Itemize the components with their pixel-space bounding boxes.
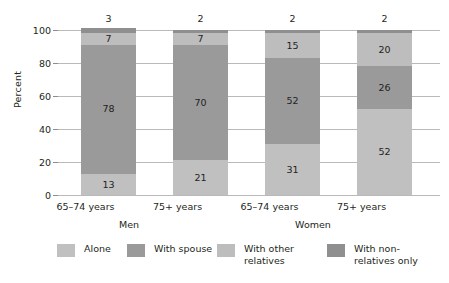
x-axis-group-label-women: Women: [253, 219, 373, 230]
legend-item-1[interactable]: With spouse: [127, 243, 212, 257]
legend-item-0[interactable]: Alone: [57, 243, 111, 257]
legend-label-2: With other relatives: [244, 243, 294, 266]
y-axis-tick-label-0: 0: [21, 190, 51, 201]
stacked-bar-chart: Percent 02040608010013787332170722315215…: [0, 0, 449, 283]
bar-3-segment-2-value-label: 20: [378, 45, 390, 55]
bar-1-segment-2[interactable]: 7: [173, 33, 228, 45]
y-axis-tick-label-60: 60: [21, 91, 51, 102]
y-axis-tick-mark-40: [53, 129, 58, 130]
bar-2-top-value-label: 2: [265, 13, 320, 24]
bar-3-segment-0-value-label: 52: [378, 147, 390, 157]
x-axis-category-label-1: 75+ years: [133, 201, 223, 212]
legend-swatch-3: [327, 244, 345, 257]
bar-1-segment-0[interactable]: 21: [173, 160, 228, 195]
bar-2-segment-0-value-label: 31: [286, 165, 298, 175]
y-axis-tick-label-40: 40: [21, 124, 51, 135]
bar-3-segment-0[interactable]: 52: [357, 109, 412, 195]
bar-2-segment-0[interactable]: 31: [265, 144, 320, 195]
bar-1-segment-3[interactable]: 2: [173, 30, 228, 33]
bar-1-segment-1[interactable]: 70: [173, 45, 228, 161]
y-axis-tick-label-100: 100: [21, 25, 51, 36]
bar-0[interactable]: 1378733: [81, 30, 136, 195]
y-axis-tick-label-80: 80: [21, 58, 51, 69]
bar-0-top-value-label: 3: [81, 13, 136, 24]
x-axis-category-label-2: 65–74 years: [225, 201, 315, 212]
bar-1-top-value-label: 2: [173, 13, 228, 24]
bar-0-segment-3[interactable]: 3: [81, 28, 136, 33]
bar-3[interactable]: 52262022: [357, 30, 412, 195]
bar-0-segment-0-value-label: 13: [102, 180, 114, 190]
gridline-0: [58, 195, 440, 196]
y-axis-tick-mark-20: [53, 162, 58, 163]
plot-area: 0204060801001378733217072231521522522620…: [58, 30, 440, 195]
legend-label-3: With non- relatives only: [354, 243, 418, 266]
bar-0-segment-0[interactable]: 13: [81, 174, 136, 195]
bar-2-segment-1[interactable]: 52: [265, 58, 320, 144]
bar-1-segment-1-value-label: 70: [194, 98, 206, 108]
bar-1-segment-2-value-label: 7: [197, 34, 203, 44]
bar-0-segment-2[interactable]: 7: [81, 33, 136, 45]
bar-0-segment-1[interactable]: 78: [81, 45, 136, 174]
bar-0-segment-1-value-label: 78: [102, 104, 114, 114]
bar-1[interactable]: 2170722: [173, 30, 228, 195]
bar-3-segment-3[interactable]: 2: [357, 30, 412, 33]
y-axis-tick-label-20: 20: [21, 157, 51, 168]
legend-item-2[interactable]: With other relatives: [217, 243, 294, 266]
y-axis-tick-mark-60: [53, 96, 58, 97]
chart-legend: AloneWith spouseWith other relativesWith…: [0, 243, 449, 283]
bar-2-segment-2[interactable]: 15: [265, 33, 320, 58]
bar-0-segment-2-value-label: 7: [105, 34, 111, 44]
legend-swatch-1: [127, 244, 145, 257]
bar-2-segment-2-value-label: 15: [286, 41, 298, 51]
bar-3-segment-1[interactable]: 26: [357, 66, 412, 109]
x-axis-category-label-0: 65–74 years: [41, 201, 131, 212]
bar-1-segment-0-value-label: 21: [194, 173, 206, 183]
legend-label-0: Alone: [84, 243, 111, 255]
legend-label-1: With spouse: [154, 243, 212, 255]
bar-3-segment-2[interactable]: 20: [357, 33, 412, 66]
y-axis-tick-mark-80: [53, 63, 58, 64]
bar-2[interactable]: 31521522: [265, 30, 320, 195]
bar-2-segment-3[interactable]: 2: [265, 30, 320, 33]
bar-2-segment-1-value-label: 52: [286, 96, 298, 106]
x-axis-group-label-men: Men: [69, 219, 189, 230]
legend-item-3[interactable]: With non- relatives only: [327, 243, 418, 266]
y-axis-tick-mark-0: [53, 195, 58, 196]
legend-swatch-0: [57, 244, 75, 257]
legend-swatch-2: [217, 244, 235, 257]
y-axis-tick-mark-100: [53, 30, 58, 31]
bar-3-top-value-label: 2: [357, 13, 412, 24]
x-axis-category-label-3: 75+ years: [317, 201, 407, 212]
bar-3-segment-1-value-label: 26: [378, 83, 390, 93]
